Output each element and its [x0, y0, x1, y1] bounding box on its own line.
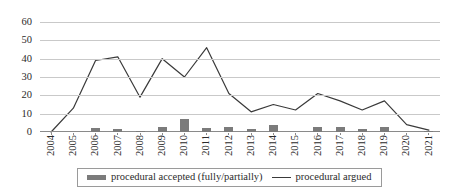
bar-2010 — [180, 119, 189, 132]
x-tick-label: 2014 — [268, 135, 279, 156]
x-tick-label: 2015 — [290, 135, 301, 156]
bar-2016 — [313, 127, 322, 132]
bar-2019 — [380, 127, 389, 132]
plot-area — [40, 22, 440, 132]
y-tick-label: 60 — [22, 17, 33, 28]
x-axis: 2004200520062007200820092010201120122013… — [40, 134, 440, 166]
y-axis: 0102030405060 — [0, 22, 36, 132]
gridline — [40, 114, 440, 115]
legend-entry-procedural-argued: procedural argued — [272, 172, 372, 183]
bar-2007 — [113, 129, 122, 132]
chart-legend: procedural accepted (fully/partially) pr… — [77, 168, 382, 187]
bar-2006 — [91, 128, 100, 132]
legend-label-procedural-argued: procedural argued — [296, 172, 372, 183]
x-tick-label: 2012 — [224, 135, 235, 156]
x-tick-label: 2005 — [68, 135, 79, 156]
x-tick-label: 2009 — [157, 135, 168, 156]
x-tick-label: 2021 — [424, 135, 435, 156]
gridline — [40, 40, 440, 41]
bar-2011 — [202, 128, 211, 132]
gridline — [40, 59, 440, 60]
y-tick-label: 50 — [22, 35, 33, 46]
x-tick-label: 2010 — [179, 135, 190, 156]
gridline — [40, 22, 440, 23]
x-tick-label: 2011 — [201, 135, 212, 156]
x-tick-label: 2019 — [379, 135, 390, 156]
y-tick-label: 40 — [22, 53, 33, 64]
bar-swatch-icon — [87, 175, 106, 180]
x-tick-label: 2006 — [90, 135, 101, 156]
x-tick-label: 2013 — [246, 135, 257, 156]
bar-2018 — [358, 129, 367, 132]
y-tick-label: 20 — [22, 90, 33, 101]
procedural-argued-line — [51, 48, 429, 132]
bar-2008 — [136, 131, 145, 132]
bar-2013 — [247, 129, 256, 132]
y-tick-label: 0 — [27, 127, 32, 138]
bar-2014 — [269, 125, 278, 132]
bar-2021 — [424, 131, 433, 132]
x-tick-label: 2008 — [135, 135, 146, 156]
chart-figure: 0102030405060 20042005200620072008200920… — [0, 0, 457, 193]
gridline — [40, 77, 440, 78]
y-tick-label: 10 — [22, 108, 33, 119]
x-tick-label: 2004 — [46, 135, 57, 156]
x-tick-label: 2007 — [113, 135, 124, 156]
legend-entry-procedural-accepted: procedural accepted (fully/partially) — [87, 172, 263, 183]
gridline — [40, 95, 440, 96]
x-tick-label: 2018 — [357, 135, 368, 156]
bar-2012 — [224, 127, 233, 133]
x-tick-label: 2020 — [401, 135, 412, 156]
bar-2009 — [158, 127, 167, 133]
legend-label-procedural-accepted: procedural accepted (fully/partially) — [111, 172, 263, 183]
line-swatch-icon — [272, 177, 291, 178]
bar-2017 — [336, 127, 345, 133]
x-tick-label: 2016 — [313, 135, 324, 156]
x-tick-label: 2017 — [335, 135, 346, 156]
y-tick-label: 30 — [22, 72, 33, 83]
